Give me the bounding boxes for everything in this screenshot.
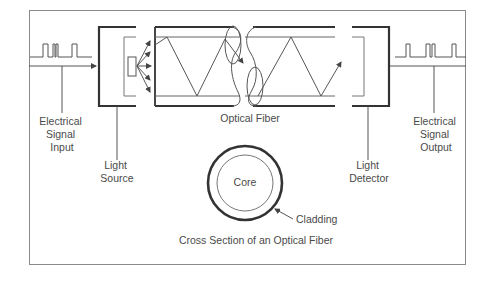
label-core: Core — [234, 176, 257, 188]
light-detector-box — [352, 27, 389, 106]
cladding-pointer — [275, 209, 293, 219]
diagram-frame — [30, 11, 466, 265]
caption: Cross Section of an Optical Fiber — [179, 234, 334, 246]
led-emitter — [128, 57, 136, 76]
label-output: Electrical Signal Output — [413, 115, 459, 153]
label-input: Electrical Signal Input — [39, 115, 85, 153]
optical-fiber-diagram: Electrical Signal Input Light Source Opt… — [0, 0, 491, 282]
emitted-rays — [137, 41, 151, 92]
light-detector-inner — [352, 37, 364, 96]
label-optical-fiber: Optical Fiber — [220, 112, 280, 124]
input-signal-waveform — [30, 44, 92, 57]
output-signal-waveform — [395, 44, 466, 57]
fiber-segment-left — [155, 26, 243, 106]
label-light-source: Light Source — [100, 159, 133, 184]
label-light-detector: Light Detector — [349, 159, 389, 184]
label-cladding: Cladding — [296, 213, 338, 225]
fiber-segment-right — [245, 27, 341, 106]
